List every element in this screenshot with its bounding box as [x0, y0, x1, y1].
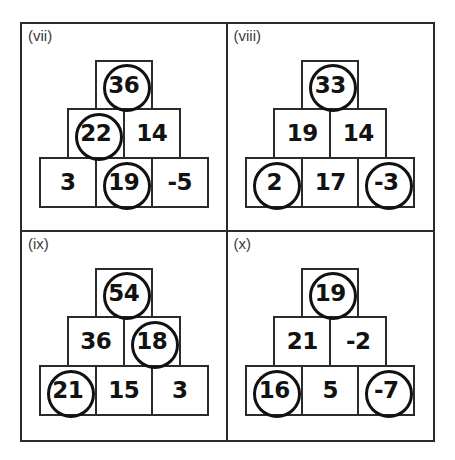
pyramid-row-top: 19 — [242, 268, 418, 318]
pyramid-cell[interactable]: 15 — [95, 365, 153, 416]
cell-value: -3 — [374, 171, 399, 194]
cell-value: 17 — [315, 171, 346, 194]
pyramid-x: 19 21 -2 16 5 — [242, 268, 418, 416]
pyramid-cell[interactable]: 18 — [123, 316, 181, 367]
pyramid-cell[interactable]: 17 — [301, 157, 359, 208]
cell-value: 2 — [266, 171, 282, 194]
pyramid-cell[interactable]: 2 — [245, 157, 303, 208]
pyramid-cell[interactable]: -2 — [329, 316, 387, 367]
panel-vii: (vii) 36 22 14 — [22, 24, 228, 232]
pyramid-cell[interactable]: 3 — [151, 365, 209, 416]
pyramid-cell[interactable]: 5 — [301, 365, 359, 416]
worksheet-sheet: (vii) 36 22 14 — [0, 0, 455, 460]
pyramid-row-middle: 36 18 — [36, 316, 212, 367]
pyramid-cell[interactable]: 19 — [273, 108, 331, 159]
cell-value: 19 — [287, 122, 318, 145]
pyramid-cell[interactable]: 19 — [95, 157, 153, 208]
panel-label-x: (x) — [234, 234, 252, 254]
cell-value: -5 — [167, 171, 192, 194]
pyramid-cell[interactable]: -7 — [357, 365, 415, 416]
cell-value: 16 — [259, 379, 290, 402]
pyramid-row-middle: 19 14 — [242, 108, 418, 159]
panel-x: (x) 19 21 -2 — [228, 232, 434, 440]
cell-value: 14 — [136, 122, 167, 145]
pyramid-ix: 54 36 18 21 — [36, 268, 212, 416]
pyramid-row-top: 33 — [242, 60, 418, 110]
pyramid-row-bottom: 3 19 -5 — [36, 157, 212, 208]
pyramid-cell[interactable]: 3 — [39, 157, 97, 208]
cell-value: 14 — [343, 122, 374, 145]
pyramid-row-bottom: 16 5 -7 — [242, 365, 418, 416]
pyramid-cell[interactable]: 19 — [301, 268, 359, 318]
pyramid-row-middle: 21 -2 — [242, 316, 418, 367]
pyramid-row-top: 36 — [36, 60, 212, 110]
pyramid-viii: 33 19 14 2 17 — [242, 60, 418, 208]
cell-value: -2 — [346, 330, 371, 353]
cell-value: 19 — [108, 171, 139, 194]
pyramid-cell[interactable]: 14 — [123, 108, 181, 159]
pyramid-row-top: 54 — [36, 268, 212, 318]
cell-value: 22 — [80, 122, 111, 145]
cell-value: 21 — [287, 330, 318, 353]
cell-value: 21 — [52, 379, 83, 402]
pyramid-cell[interactable]: 36 — [67, 316, 125, 367]
cell-value: 36 — [80, 330, 111, 353]
panel-label-viii: (viii) — [234, 26, 262, 46]
cell-value: 33 — [315, 74, 346, 97]
pyramid-row-middle: 22 14 — [36, 108, 212, 159]
pyramid-vii: 36 22 14 3 — [36, 60, 212, 208]
cell-value: 18 — [136, 330, 167, 353]
pyramid-cell[interactable]: 33 — [301, 60, 359, 110]
cell-value: 54 — [108, 282, 139, 305]
pyramid-row-bottom: 2 17 -3 — [242, 157, 418, 208]
panel-grid: (vii) 36 22 14 — [20, 22, 435, 442]
cell-value: 15 — [108, 379, 139, 402]
cell-value: 5 — [322, 379, 338, 402]
pyramid-cell[interactable]: 21 — [39, 365, 97, 416]
pyramid-cell[interactable]: -5 — [151, 157, 209, 208]
panel-label-vii: (vii) — [28, 26, 52, 46]
panel-viii: (viii) 33 19 14 — [228, 24, 434, 232]
pyramid-cell[interactable]: 21 — [273, 316, 331, 367]
cell-value: 19 — [315, 282, 346, 305]
pyramid-row-bottom: 21 15 3 — [36, 365, 212, 416]
pyramid-cell[interactable]: 14 — [329, 108, 387, 159]
cell-value: -7 — [374, 379, 399, 402]
cell-value: 3 — [60, 171, 76, 194]
pyramid-cell[interactable]: -3 — [357, 157, 415, 208]
panel-ix: (ix) 54 36 18 — [22, 232, 228, 440]
cell-value: 3 — [172, 379, 188, 402]
pyramid-cell[interactable]: 22 — [67, 108, 125, 159]
pyramid-cell[interactable]: 54 — [95, 268, 153, 318]
panel-label-ix: (ix) — [28, 234, 49, 254]
cell-value: 36 — [108, 74, 139, 97]
pyramid-cell[interactable]: 16 — [245, 365, 303, 416]
pyramid-cell[interactable]: 36 — [95, 60, 153, 110]
